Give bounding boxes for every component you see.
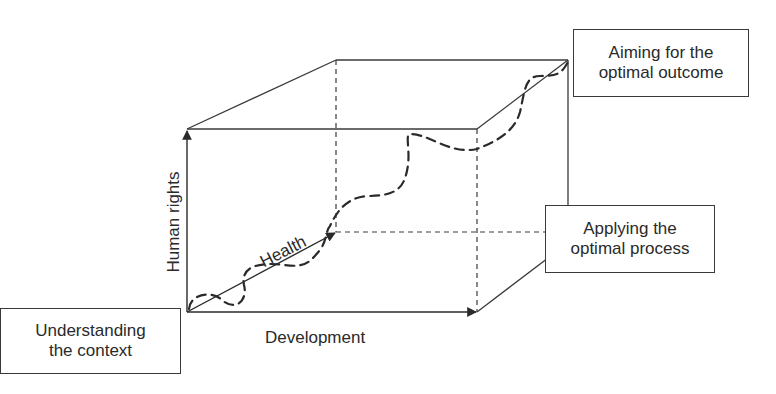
box-line: Understanding xyxy=(35,321,146,341)
understanding-context-box: Understanding the context xyxy=(0,308,181,374)
health-axis xyxy=(187,233,335,312)
box-line: optimal outcome xyxy=(599,63,724,83)
trajectory-path xyxy=(189,62,568,309)
box-line: optimal process xyxy=(570,239,689,259)
optimal-outcome-box: Aiming for the optimal outcome xyxy=(573,29,749,97)
box-line: Applying the xyxy=(583,219,677,239)
development-label: Development xyxy=(265,328,365,348)
axes xyxy=(187,131,476,312)
box-line: the context xyxy=(49,341,132,361)
hidden-edges xyxy=(336,60,548,312)
box-line: Aiming for the xyxy=(609,43,714,63)
human-rights-label: Human rights xyxy=(164,171,184,272)
optimal-process-box: Applying the optimal process xyxy=(545,205,715,273)
